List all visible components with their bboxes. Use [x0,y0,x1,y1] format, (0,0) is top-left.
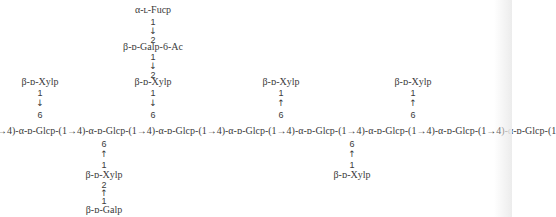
linkage-position: 6 [101,139,106,149]
galactose-acetyl-residue: β-ᴅ-Galp-6-Ac [123,42,183,52]
linkage-arrow-icon: ↑ [277,98,285,108]
fucose-residue: α-ʟ-Fucp [135,5,171,15]
page-edge-shadow [494,0,512,217]
xylose-residue: β-ᴅ-Xylp [22,77,59,87]
linkage-position: 1 [410,88,415,98]
linkage-arrow-icon: ↑ [100,149,108,159]
xylose-residue: β-ᴅ-Xylp [263,77,300,87]
linkage-arrow-icon: ↑ [348,149,356,159]
glucan-backbone-chain: →4)-α-ᴅ-Glcp-(1→4)-α-ᴅ-Glcp-(1→4)-α-ᴅ-Gl… [0,126,556,136]
linkage-arrow-icon: ↓ [36,98,44,108]
linkage-arrow-icon: ↓ [149,98,157,108]
linkage-arrow-icon: ↑ [409,98,417,108]
galactose-residue: β-ᴅ-Galp [86,205,122,215]
xylose-residue: β-ᴅ-Xylp [395,77,432,87]
xylose-residue: β-ᴅ-Xylp [86,170,123,180]
linkage-position: 6 [150,110,155,120]
xylose-residue: β-ᴅ-Xylp [334,170,371,180]
linkage-position: 6 [37,110,42,120]
linkage-position: 6 [278,110,283,120]
linkage-position: 1 [278,88,283,98]
linkage-position: 6 [349,139,354,149]
linkage-position: 1 [150,88,155,98]
linkage-position: 1 [37,88,42,98]
linkage-position: 6 [410,110,415,120]
xylose-residue: β-ᴅ-Xylp [135,77,172,87]
